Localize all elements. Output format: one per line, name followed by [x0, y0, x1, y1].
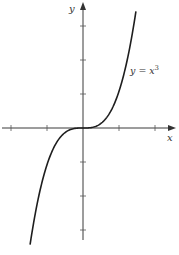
- equation-text: y = x: [129, 65, 155, 76]
- curve-equation-label: y = x3: [129, 64, 159, 76]
- equation-exponent: 3: [155, 64, 159, 72]
- y-axis-arrow-icon: [80, 2, 86, 10]
- x-axis-arrow-icon: [168, 125, 176, 131]
- x-axis-label: x: [167, 132, 173, 143]
- y-axis-label: y: [68, 3, 75, 14]
- cubic-function-graph: x y y = x3: [0, 0, 179, 255]
